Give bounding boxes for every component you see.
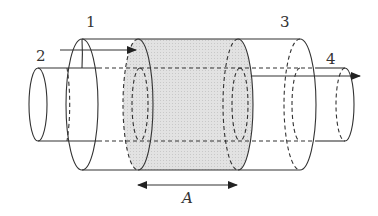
label-4: 4 (326, 50, 336, 68)
shaded-region (123, 39, 253, 170)
label-1: 1 (86, 13, 96, 31)
label-3: 3 (280, 13, 290, 31)
cylinder-diagram: 1 2 3 4 A (0, 0, 378, 216)
label-2: 2 (36, 47, 46, 65)
label-a: A (180, 189, 193, 207)
